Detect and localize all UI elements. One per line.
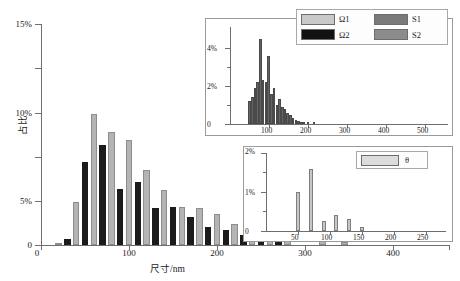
bar [108,132,114,245]
bar [91,114,97,245]
bar [170,207,176,245]
bar [82,162,88,245]
inset-bottom-xtick-label-150: 150 [353,233,364,242]
inset-bottom-ytick-0 [261,231,266,232]
inset-bottom-xtick-label-250: 250 [417,233,428,242]
inset-bottom-histogram: 0 1% 2% 50 100 150 200 250 θ [243,146,453,242]
bar [55,243,61,245]
bar [187,217,193,245]
bar [360,227,364,231]
inset-bottom-xtick-label-100: 100 [321,233,332,242]
legend-swatch-theta [361,155,399,166]
bar [73,202,79,245]
bar [99,145,105,245]
inset-bottom-ytick-minor-15 [263,172,266,173]
bar [231,224,237,245]
inset-top-xtick-label-300: 300 [339,126,350,135]
inset-bottom-ytick-label-1: 1% [245,188,255,197]
inset-bottom-ytick-label-0: 0 [245,227,249,236]
legend-entry-omega1: Ω1 [301,14,370,25]
legend-label-omega1: Ω1 [339,14,350,24]
bar [196,208,202,245]
bar [135,182,141,245]
inset-top-ytick-4 [225,48,230,49]
inset-bottom-ytick-1 [261,192,266,193]
inset-top-ytick-0 [225,124,230,125]
bar [322,221,326,231]
inset-top-ytick-minor-3 [227,67,230,68]
bar [126,140,132,245]
inset-bottom-xtick-label-50: 50 [291,233,299,242]
bar [205,227,211,245]
legend-swatch-s2 [374,29,408,40]
legend-swatch-omega1 [301,14,335,25]
inset-bottom-legend: θ [356,151,428,169]
bar [296,192,300,231]
inset-top-ytick-2 [225,86,230,87]
bar [64,239,70,245]
legend-label-s2: S2 [412,30,421,40]
bar [303,122,306,124]
main-legend: Ω1 S1 Ω2 S2 [296,9,448,45]
inset-top-xtick-label-100: 100 [261,126,272,135]
inset-top-ytick-minor-1 [227,105,230,106]
inset-bottom-ytick-2 [261,153,266,154]
legend-entry-s2: S2 [374,29,443,40]
legend-swatch-s1 [374,14,408,25]
legend-entry-omega2: Ω2 [301,29,370,40]
inset-bottom-ytick-label-2: 2% [245,147,255,156]
legend-swatch-omega2 [301,29,335,40]
legend-label-s1: S1 [412,14,421,24]
bar [307,122,310,124]
bar [258,242,264,245]
inset-top-xtick-label-200: 200 [300,126,311,135]
chart-figure: 15% 10% 5% 0 0 100 200 300 400 占比 尺寸/nm … [0,0,460,281]
bar [214,214,220,245]
legend-label-omega2: Ω2 [339,30,350,40]
inset-top-xtick-label-400: 400 [378,126,389,135]
inset-top-ytick-label-4: 4% [207,44,217,53]
bar [313,122,316,124]
bar [347,219,351,231]
inset-bottom-y-axis-line [266,153,267,231]
inset-top-y-axis-line [230,27,231,124]
inset-top-ytick-label-0: 0 [207,120,211,129]
bar [223,230,229,245]
bar [334,215,338,231]
inset-top-ytick-label-2: 2% [207,82,217,91]
bar [143,170,149,245]
bar [161,190,167,245]
bar [179,207,185,245]
inset-bottom-ytick-minor-05 [263,211,266,212]
bar [117,189,123,245]
bar [152,208,158,245]
bar [341,242,347,245]
inset-top-x-axis-line [230,124,448,125]
inset-top-xtick-label-500: 500 [417,126,428,135]
inset-bottom-x-axis-line [266,231,446,232]
inset-bottom-xtick-label-200: 200 [385,233,396,242]
bar [309,169,313,231]
legend-entry-s1: S1 [374,14,443,25]
legend-label-theta: θ [405,155,409,165]
